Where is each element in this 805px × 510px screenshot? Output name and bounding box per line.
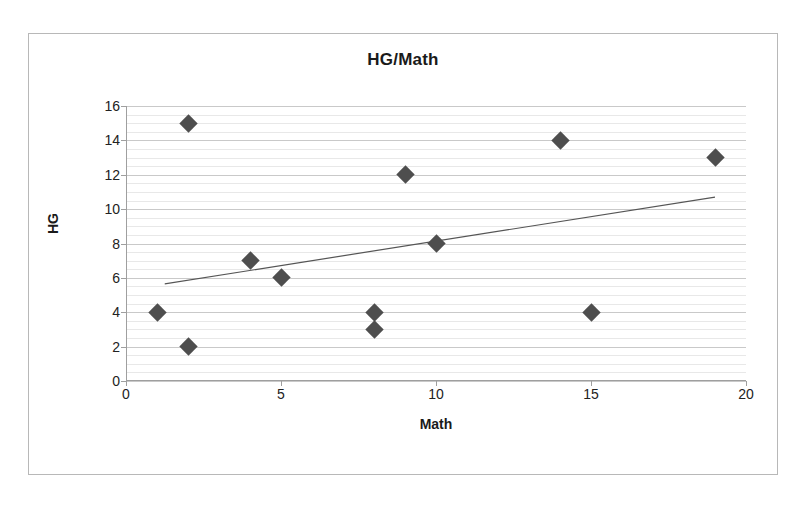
plot-area	[126, 106, 746, 381]
x-tick-label: 15	[571, 386, 611, 402]
y-tick-label: 10	[88, 201, 120, 217]
x-tick-label: 0	[106, 386, 146, 402]
y-tick-label: 14	[88, 132, 120, 148]
y-tick-label: 6	[88, 270, 120, 286]
y-tick-label: 2	[88, 339, 120, 355]
y-axis-tick-labels: 0246810121416	[84, 106, 120, 381]
y-tick-label: 16	[88, 98, 120, 114]
x-axis-title: Math	[126, 416, 746, 432]
y-tick-label: 12	[88, 167, 120, 183]
x-axis-tick-labels: 05101520	[126, 386, 746, 410]
y-tick-label: 4	[88, 304, 120, 320]
y-tick	[121, 381, 126, 382]
y-tick-label: 8	[88, 236, 120, 252]
y-axis-title: HG	[45, 213, 61, 234]
chart-frame: HG/Math 0246810121416 05101520 HG Math	[28, 33, 778, 475]
x-tick-label: 10	[416, 386, 456, 402]
x-tick-label: 20	[726, 386, 766, 402]
x-tick-label: 5	[261, 386, 301, 402]
chart-title: HG/Math	[29, 50, 777, 70]
